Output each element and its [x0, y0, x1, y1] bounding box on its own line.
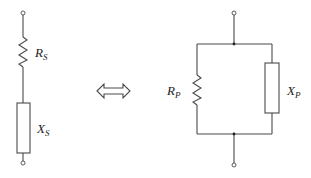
parallel-top-terminal-icon	[232, 11, 236, 15]
series-resistor-label: RS	[35, 46, 47, 62]
label-subscript: S	[45, 128, 50, 138]
circuit-diagram	[0, 0, 311, 178]
series-resistor-icon	[19, 37, 27, 67]
parallel-reactance-icon	[265, 63, 279, 113]
series-reactance-label: XS	[37, 122, 49, 138]
label-subscript: P	[295, 90, 301, 100]
parallel-reactance-label: XP	[287, 84, 300, 100]
equivalence-double-arrow-icon	[97, 84, 130, 98]
parallel-bottom-terminal-icon	[232, 163, 236, 167]
parallel-circuit	[193, 11, 279, 167]
top-junction-dot-icon	[233, 43, 236, 46]
label-symbol: X	[287, 83, 295, 98]
parallel-resistor-icon	[193, 75, 201, 105]
label-subscript: S	[43, 52, 48, 62]
series-bottom-terminal-icon	[21, 161, 25, 165]
label-symbol: X	[37, 121, 45, 136]
label-subscript: P	[175, 90, 181, 100]
series-circuit	[17, 11, 30, 165]
label-symbol: R	[35, 45, 43, 60]
bottom-junction-dot-icon	[233, 133, 236, 136]
series-top-terminal-icon	[21, 11, 25, 15]
label-symbol: R	[167, 83, 175, 98]
parallel-resistor-label: RP	[167, 84, 180, 100]
series-reactance-icon	[17, 103, 30, 153]
